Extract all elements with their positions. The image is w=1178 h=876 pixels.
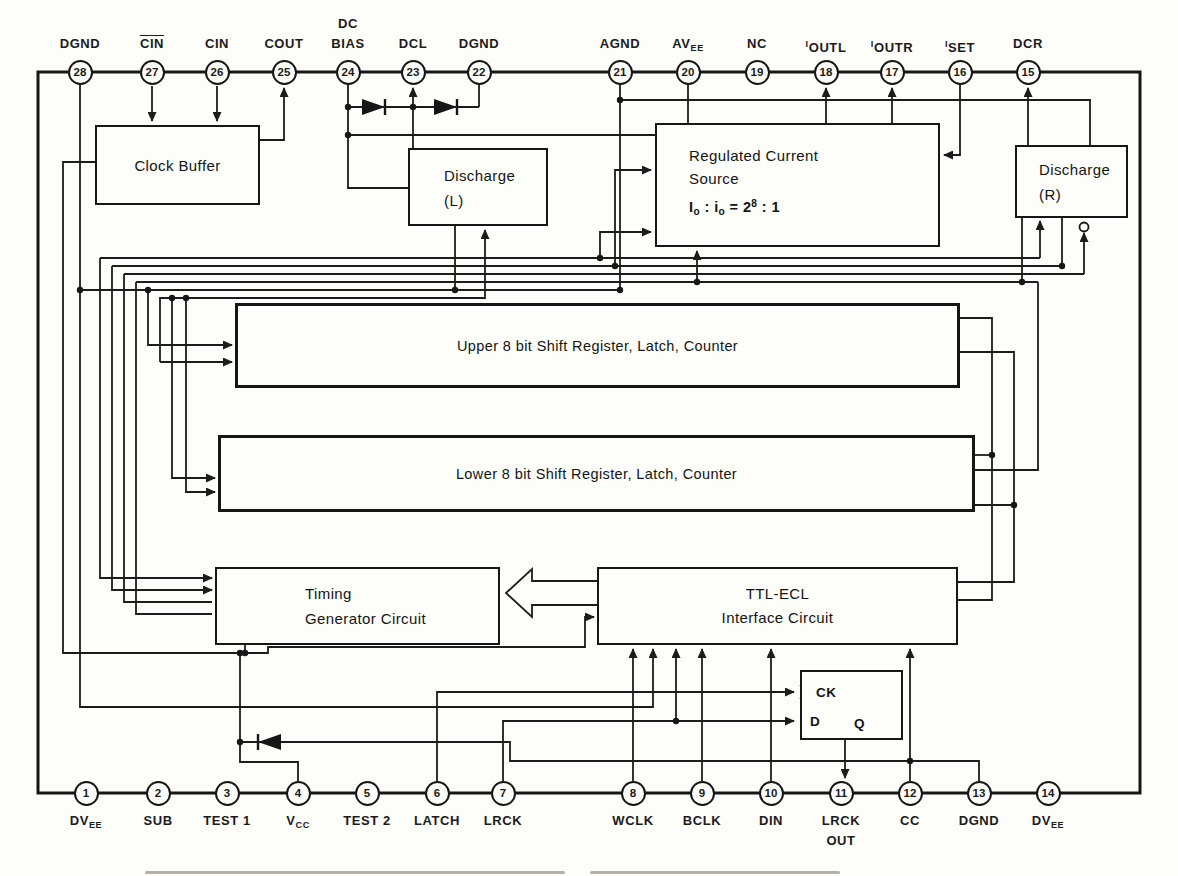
clock-buffer-label: Clock Buffer [97,127,258,203]
discharge-r-line2: (R) [1039,183,1126,208]
clock-buffer-block: Clock Buffer [95,125,260,205]
flip-flop-ck-label: CK [816,685,837,700]
upper-shift-register-label: Upper 8 bit Shift Register, Latch, Count… [238,306,957,385]
timing-generator-block: Timing Generator Circuit [215,567,500,645]
flip-flop-block: CK D Q [800,670,903,740]
discharge-r-line1: Discharge [1039,158,1126,183]
cropped-caption-remnant [590,871,840,874]
diode-2 [434,99,457,115]
cropped-caption-remnant [145,871,565,874]
current-source-line2: Source [689,168,938,191]
inverter-bubble [1080,223,1089,232]
timing-generator-line2: Generator Circuit [305,607,498,632]
current-source-formula: Io : io = 28 : 1 [689,196,938,219]
ttl-ecl-line1: TTL-ECL [746,582,810,606]
discharge-l-line2: (L) [444,189,546,214]
flip-flop-d-label: D [810,714,820,729]
bus-arrow [506,569,597,617]
discharge-l-block: Discharge (L) [408,148,548,226]
lower-shift-register-block: Lower 8 bit Shift Register, Latch, Count… [218,435,975,512]
ttl-ecl-line2: Interface Circuit [722,606,834,630]
block-diagram: Clock Buffer Discharge (L) Regulated Cur… [0,0,1178,876]
discharge-l-line1: Discharge [444,164,546,189]
lower-shift-register-label: Lower 8 bit Shift Register, Latch, Count… [221,438,972,509]
discharge-r-block: Discharge (R) [1015,145,1128,218]
flip-flop-q-label: Q [854,716,865,731]
diode-1 [362,99,385,115]
timing-generator-line1: Timing [305,582,498,607]
ttl-ecl-interface-block: TTL-ECL Interface Circuit [597,567,958,645]
diode-3 [258,734,281,750]
regulated-current-source-block: Regulated Current Source Io : io = 28 : … [655,123,940,247]
upper-shift-register-block: Upper 8 bit Shift Register, Latch, Count… [235,303,960,388]
current-source-line1: Regulated Current [689,145,938,168]
